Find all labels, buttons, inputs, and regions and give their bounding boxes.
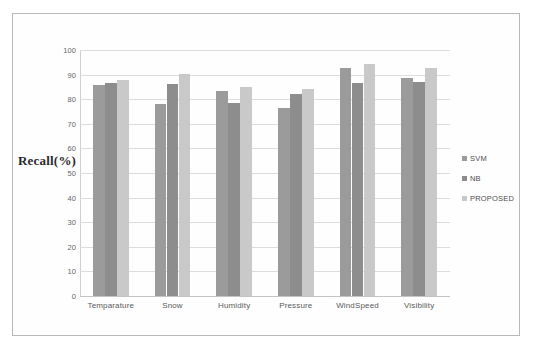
- y-tick-label: 40: [50, 193, 76, 202]
- y-axis-tick-labels: 1009080706050403020100: [48, 50, 76, 296]
- legend-label: SVM: [470, 154, 487, 163]
- bar-svm-snow: [155, 104, 167, 296]
- legend-label: PROPOSED: [470, 194, 514, 203]
- recall-bar-chart: Recall(%) 1009080706050403020100 Tempara…: [0, 0, 535, 351]
- bar-proposed-snow: [179, 74, 191, 296]
- y-tick-label: 90: [50, 70, 76, 79]
- plot-area: [80, 50, 450, 296]
- legend-label: NB: [470, 174, 481, 183]
- bar-nb-humidity: [228, 103, 240, 296]
- x-tick-label: Visibility: [404, 301, 434, 310]
- legend-item-proposed[interactable]: PROPOSED: [462, 190, 532, 206]
- legend-swatch-icon: [462, 176, 467, 181]
- bar-group: [203, 50, 265, 296]
- y-tick-label: 70: [50, 119, 76, 128]
- legend-item-nb[interactable]: NB: [462, 170, 532, 186]
- bar-nb-snow: [167, 84, 179, 296]
- bar-group: [388, 50, 450, 296]
- bar-svm-windspeed: [340, 68, 352, 296]
- bar-proposed-temparature: [117, 80, 129, 296]
- x-tick-label: Pressure: [279, 301, 312, 310]
- legend-item-svm[interactable]: SVM: [462, 150, 532, 166]
- x-tick-label: Humidity: [218, 301, 250, 310]
- x-axis-tick-labels: TemparatureSnowHumidityPressureWindSpeed…: [80, 301, 450, 319]
- x-tick-label: Snow: [162, 301, 183, 310]
- bar-proposed-humidity: [240, 87, 252, 296]
- bar-nb-pressure: [290, 94, 302, 296]
- bar-svm-humidity: [216, 91, 228, 296]
- y-tick-label: 0: [50, 292, 76, 301]
- chart-legend: SVMNBPROPOSED: [462, 150, 532, 210]
- y-tick-label: 20: [50, 242, 76, 251]
- bar-svm-pressure: [278, 108, 290, 296]
- bar-nb-windspeed: [352, 83, 364, 296]
- bar-proposed-pressure: [302, 89, 314, 296]
- y-tick-label: 50: [50, 169, 76, 178]
- bar-proposed-visibility: [425, 68, 437, 296]
- bar-svm-visibility: [401, 78, 413, 296]
- y-tick-label: 10: [50, 267, 76, 276]
- y-tick-label: 100: [50, 46, 76, 55]
- legend-swatch-icon: [462, 196, 467, 201]
- bar-group: [142, 50, 204, 296]
- y-tick-label: 80: [50, 95, 76, 104]
- x-tick-label: WindSpeed: [336, 301, 379, 310]
- bar-proposed-windspeed: [364, 64, 376, 296]
- bar-group: [327, 50, 389, 296]
- y-tick-label: 60: [50, 144, 76, 153]
- bar-nb-visibility: [413, 82, 425, 296]
- bar-group: [265, 50, 327, 296]
- legend-swatch-icon: [462, 156, 467, 161]
- bar-group: [80, 50, 142, 296]
- gridline: [80, 296, 450, 297]
- bar-svm-temparature: [93, 85, 105, 296]
- x-tick-label: Temparature: [88, 301, 135, 310]
- bar-nb-temparature: [105, 83, 117, 296]
- y-tick-label: 30: [50, 218, 76, 227]
